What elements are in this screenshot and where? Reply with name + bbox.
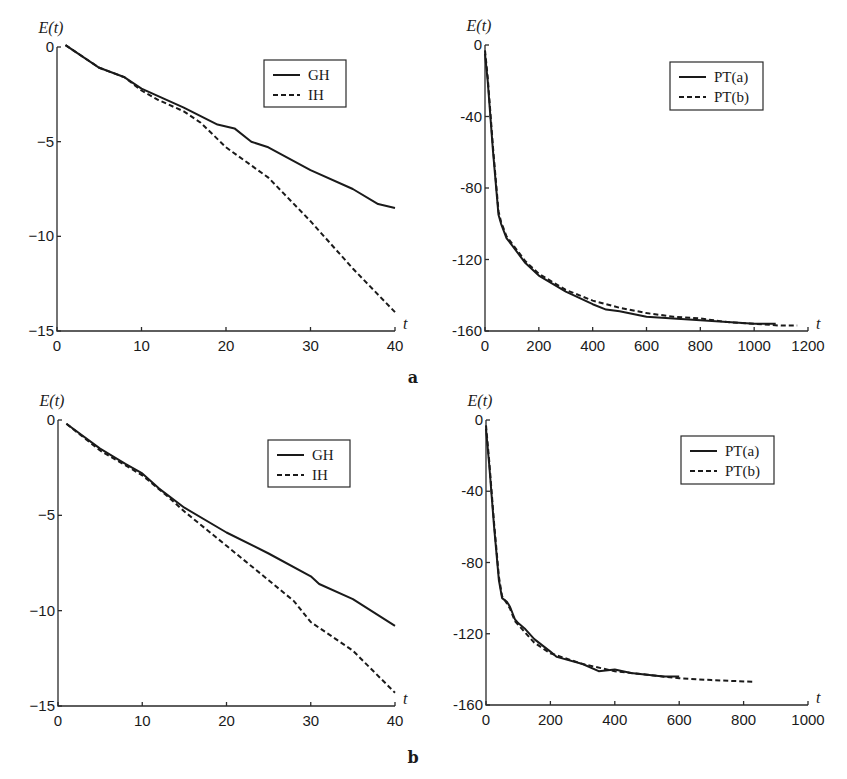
y-axis-title: E(t) bbox=[466, 17, 492, 35]
y-tick-label: 0 bbox=[474, 36, 482, 53]
legend-label: PT(a) bbox=[714, 69, 748, 86]
y-tick-label: 0 bbox=[475, 411, 483, 428]
y-tick-label: −5 bbox=[38, 506, 55, 523]
y-tick-label: −10 bbox=[29, 227, 54, 244]
x-tick-label: 600 bbox=[634, 337, 659, 354]
x-tick-label: 40 bbox=[387, 712, 404, 729]
x-tick-label: 200 bbox=[526, 337, 551, 354]
y-tick-label: −10 bbox=[30, 602, 55, 619]
x-tick-label: 30 bbox=[302, 337, 319, 354]
x-axis-title: t bbox=[816, 315, 821, 332]
x-tick-label: 1200 bbox=[791, 337, 824, 354]
x-tick-label: 0 bbox=[54, 712, 62, 729]
x-tick-label: 20 bbox=[218, 712, 235, 729]
panel-label-b: b bbox=[407, 748, 418, 767]
chart-b-right: 020040060080010000-40-80-120-160E(t)tPT(… bbox=[453, 392, 825, 728]
panel-label-a: a bbox=[408, 368, 418, 387]
y-tick-label: 0 bbox=[47, 411, 55, 428]
y-tick-label: -160 bbox=[452, 322, 482, 339]
y-tick-label: -40 bbox=[460, 108, 482, 125]
y-tick-label: -120 bbox=[452, 251, 482, 268]
y-tick-label: −15 bbox=[30, 697, 55, 714]
x-tick-label: 0 bbox=[53, 337, 61, 354]
chart-b-left: 0102030400−5−10−15E(t)tGHIH bbox=[30, 392, 408, 729]
legend-label: PT(b) bbox=[725, 463, 760, 480]
y-axis-title: E(t) bbox=[38, 19, 64, 37]
legend-label: IH bbox=[312, 467, 328, 483]
legend-box bbox=[268, 440, 350, 487]
x-tick-label: 1000 bbox=[737, 337, 770, 354]
y-tick-label: 0 bbox=[46, 38, 54, 55]
y-tick-label: −5 bbox=[37, 133, 54, 150]
x-tick-label: 600 bbox=[667, 711, 692, 728]
legend-box bbox=[264, 60, 346, 107]
x-tick-label: 30 bbox=[302, 712, 319, 729]
x-tick-label: 20 bbox=[218, 337, 235, 354]
legend: GHIH bbox=[264, 60, 346, 107]
y-axis-title: E(t) bbox=[39, 392, 65, 410]
y-axis-title: E(t) bbox=[467, 392, 493, 410]
series-line-pt-a- bbox=[486, 429, 679, 677]
x-tick-label: 200 bbox=[538, 711, 563, 728]
x-tick-label: 800 bbox=[688, 337, 713, 354]
y-tick-label: -160 bbox=[453, 696, 483, 713]
chart-a-right: 0200400600800100012000-40-80-120-160E(t)… bbox=[452, 17, 825, 354]
legend-label: GH bbox=[308, 67, 330, 83]
x-axis-title: t bbox=[816, 689, 821, 706]
x-tick-label: 1000 bbox=[791, 711, 824, 728]
figure-canvas: 0102030400−5−10−15E(t)tGHIH0200400600800… bbox=[0, 0, 847, 779]
y-tick-label: -40 bbox=[461, 482, 483, 499]
legend: GHIH bbox=[268, 440, 350, 487]
x-tick-label: 0 bbox=[481, 337, 489, 354]
x-tick-label: 400 bbox=[580, 337, 605, 354]
x-tick-label: 0 bbox=[482, 711, 490, 728]
x-axis-title: t bbox=[403, 690, 408, 707]
x-tick-label: 10 bbox=[133, 337, 150, 354]
chart-a-left: 0102030400−5−10−15E(t)tGHIH bbox=[29, 19, 408, 354]
legend-label: PT(a) bbox=[725, 443, 759, 460]
y-tick-label: -80 bbox=[460, 179, 482, 196]
x-tick-label: 800 bbox=[731, 711, 756, 728]
legend: PT(a)PT(b) bbox=[681, 436, 774, 484]
legend-label: PT(b) bbox=[714, 89, 749, 106]
x-tick-label: 10 bbox=[134, 712, 151, 729]
legend: PT(a)PT(b) bbox=[670, 62, 763, 110]
y-tick-label: −15 bbox=[29, 322, 54, 339]
x-tick-label: 400 bbox=[602, 711, 627, 728]
legend-label: IH bbox=[308, 87, 324, 103]
legend-label: GH bbox=[312, 447, 334, 463]
y-tick-label: -120 bbox=[453, 625, 483, 642]
y-tick-label: -80 bbox=[461, 554, 483, 571]
x-axis-title: t bbox=[403, 315, 408, 332]
x-tick-label: 40 bbox=[387, 337, 404, 354]
